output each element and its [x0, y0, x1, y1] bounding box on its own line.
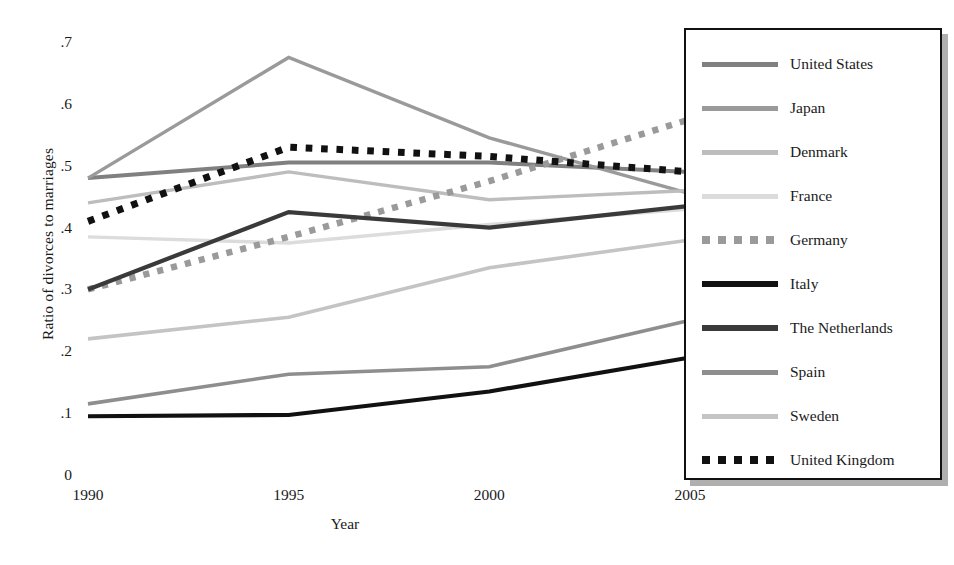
legend-item-label: Japan [790, 100, 825, 116]
series-line [88, 206, 690, 290]
legend-swatch-icon [702, 325, 778, 330]
legend-item-label: Denmark [790, 144, 848, 160]
series-line [88, 57, 690, 193]
y-tick-label: .5 [38, 158, 72, 174]
legend-item[interactable]: United Kingdom [686, 438, 944, 482]
series-line [88, 320, 690, 404]
y-tick-label: .1 [38, 405, 72, 421]
y-tick-label: .3 [38, 281, 72, 297]
x-tick-label: 1995 [257, 487, 321, 503]
y-tick-label: .6 [38, 96, 72, 112]
legend-item[interactable]: The Netherlands [686, 306, 944, 350]
legend-item[interactable]: France [686, 174, 944, 218]
legend-swatch-icon [702, 194, 778, 199]
legend-item[interactable]: Germany [686, 218, 944, 262]
legend-item-label: Spain [790, 364, 825, 380]
series-line [88, 119, 690, 289]
y-tick-label: .4 [38, 220, 72, 236]
line-chart-svg [88, 42, 690, 475]
legend-item-label: United States [790, 56, 873, 72]
legend-swatch-icon [702, 370, 778, 375]
legend-item-label: The Netherlands [790, 320, 893, 336]
chart-figure: Ratio of divorces to marriages 0.1.2.3.4… [0, 0, 954, 565]
legend-swatch-icon [702, 236, 778, 244]
legend-swatch-icon [702, 62, 778, 67]
legend-item-label: Sweden [790, 408, 839, 424]
legend-swatch-icon [702, 456, 778, 464]
legend-item-label: United Kingdom [790, 452, 895, 468]
legend-item[interactable]: Spain [686, 350, 944, 394]
x-tick-label: 1990 [56, 487, 120, 503]
x-axis-title: Year [0, 515, 690, 533]
y-tick-label: .7 [38, 34, 72, 50]
x-tick-label: 2000 [457, 487, 521, 503]
legend-item[interactable]: Sweden [686, 394, 944, 438]
legend-item[interactable]: United States [686, 42, 944, 86]
legend-swatch-icon [702, 414, 778, 419]
series-line [88, 357, 690, 416]
legend-swatch-icon [702, 150, 778, 155]
legend-item[interactable]: Denmark [686, 130, 944, 174]
legend-item-label: Germany [790, 232, 848, 248]
y-tick-label: 0 [38, 467, 72, 483]
x-tick-label: 2005 [658, 487, 722, 503]
legend-item-label: France [790, 188, 832, 204]
legend-swatch-icon [702, 281, 778, 286]
plot-area [88, 42, 690, 475]
legend-item-label: Italy [790, 276, 818, 292]
legend-item[interactable]: Japan [686, 86, 944, 130]
legend-item[interactable]: Italy [686, 262, 944, 306]
chart-legend: United StatesJapanDenmarkFranceGermanyIt… [684, 28, 942, 480]
y-tick-label: .2 [38, 343, 72, 359]
legend-swatch-icon [702, 106, 778, 111]
